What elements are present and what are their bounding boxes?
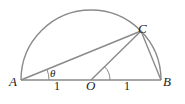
- point-label-a: A: [8, 74, 17, 89]
- angle-theta-arc: [47, 70, 49, 81]
- segment-ac: [21, 31, 141, 80]
- semicircle-diagram: A B C O θ 1 1: [0, 0, 185, 104]
- segment-cb: [141, 31, 161, 80]
- segment-ob-label: 1: [124, 79, 130, 93]
- segment-ao-label: 1: [54, 79, 60, 93]
- point-label-o: O: [86, 78, 96, 93]
- point-label-b: B: [163, 74, 171, 89]
- point-label-c: C: [138, 21, 147, 36]
- segment-oc: [91, 31, 141, 80]
- angle-o-arc: [105, 67, 111, 81]
- angle-theta-label: θ: [50, 67, 56, 79]
